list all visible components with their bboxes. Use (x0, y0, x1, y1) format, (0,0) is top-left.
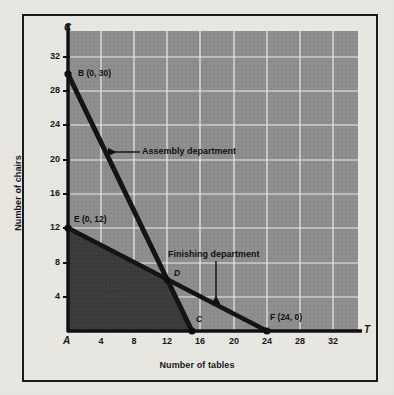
point-C-marker (188, 327, 195, 334)
feasible-region-label-line1: Feasible (102, 284, 128, 291)
x-tick-8: 8 (123, 336, 145, 346)
point-B-label: B (0, 30) (78, 68, 111, 78)
x-tick-28: 28 (289, 336, 311, 346)
point-D-label: D (174, 268, 180, 278)
y-axis-title: Number of chairs (13, 113, 23, 273)
x-axis-letter-T: T (364, 324, 370, 335)
y-tick-4: 4 (40, 291, 60, 301)
y-tick-12: 12 (40, 222, 60, 232)
point-D-marker (164, 277, 170, 283)
point-C-label: C (196, 314, 202, 324)
x-tick-4: 4 (90, 336, 112, 346)
finishing-department-annotation: Finishing department (168, 249, 260, 259)
point-F-marker (263, 327, 270, 334)
y-tick-32: 32 (40, 51, 60, 61)
x-tick-20: 20 (223, 336, 245, 346)
x-tick-24: 24 (256, 336, 278, 346)
feasible-region-label-line2: region (105, 292, 124, 299)
assembly-department-annotation: Assembly department (142, 146, 236, 156)
y-tick-8: 8 (40, 257, 60, 267)
point-E-label: E (0, 12) (74, 214, 107, 224)
y-tick-24: 24 (40, 119, 60, 129)
x-tick-32: 32 (322, 336, 344, 346)
y-axis-letter-C: C (64, 22, 71, 33)
origin-letter-A: A (63, 335, 70, 346)
feasible-region-label: Feasible region (85, 284, 145, 300)
y-tick-28: 28 (40, 85, 60, 95)
point-E-marker (64, 224, 71, 231)
x-tick-12: 12 (156, 336, 178, 346)
point-B-marker (64, 70, 71, 77)
y-tick-16: 16 (40, 188, 60, 198)
x-tick-16: 16 (189, 336, 211, 346)
x-axis-title: Number of tables (0, 360, 394, 370)
point-F-label: F (24, 0) (270, 312, 302, 322)
y-tick-20: 20 (40, 154, 60, 164)
